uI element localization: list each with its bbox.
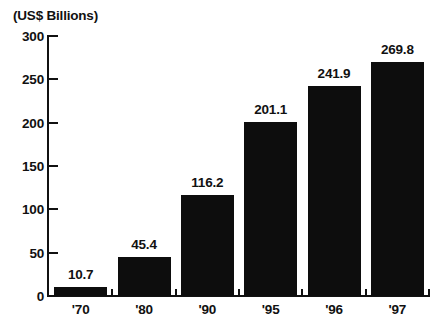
y-axis-tick-label: 0 bbox=[2, 289, 44, 304]
bar-value-label: 10.7 bbox=[68, 267, 93, 282]
bar bbox=[181, 195, 234, 296]
x-axis-category-label: '97 bbox=[389, 302, 407, 317]
x-axis-category-label: '95 bbox=[262, 302, 280, 317]
y-axis-tick-labels: 050100150200250300 bbox=[0, 0, 44, 332]
y-axis-tick-label: 50 bbox=[2, 245, 44, 260]
bar-value-label: 201.1 bbox=[254, 102, 287, 117]
y-axis-tick-label: 100 bbox=[2, 202, 44, 217]
x-axis-category-label: '96 bbox=[325, 302, 343, 317]
bar-value-label: 269.8 bbox=[381, 42, 414, 57]
bar bbox=[244, 122, 297, 296]
y-axis-tick-label: 200 bbox=[2, 115, 44, 130]
x-axis-category-label: '70 bbox=[72, 302, 90, 317]
y-axis-tick-label: 300 bbox=[2, 29, 44, 44]
x-axis-category-label: '90 bbox=[199, 302, 217, 317]
bar bbox=[118, 257, 171, 296]
y-axis-tick-label: 150 bbox=[2, 159, 44, 174]
bar-value-label: 116.2 bbox=[191, 175, 223, 190]
x-axis-category-label: '80 bbox=[135, 302, 153, 317]
plot-area bbox=[48, 36, 430, 296]
bar-value-label: 241.9 bbox=[318, 66, 351, 81]
y-axis-tick-label: 250 bbox=[2, 72, 44, 87]
bar-chart: (US$ Billions) 050100150200250300 10.7'7… bbox=[0, 0, 437, 332]
bar-value-label: 45.4 bbox=[131, 237, 156, 252]
bar bbox=[371, 62, 424, 296]
bar bbox=[54, 287, 107, 296]
bar bbox=[308, 86, 361, 296]
